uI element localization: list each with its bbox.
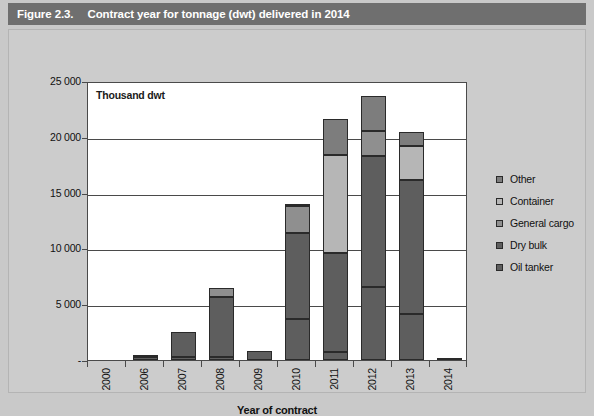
y-axis: -5 00010 00015 00020 00025 000 [9,30,81,394]
bar-segment-general_cargo[interactable] [285,206,310,233]
x-axis-tick [353,361,354,367]
x-axis-tick-label-2006: 2006 [138,368,150,391]
bar-2008[interactable] [209,81,234,360]
bar-segment-oil_tanker[interactable] [323,352,348,360]
bar-segment-container[interactable] [285,204,310,206]
bar-2010[interactable] [285,81,310,360]
bar-segment-oil_tanker[interactable] [209,357,234,360]
bar-segment-container[interactable] [399,146,424,181]
x-axis-tick [87,361,88,367]
figure-title-bar: Figure 2.3. Contract year for tonnage (d… [8,3,586,25]
bar-2007[interactable] [171,81,196,360]
bar-segment-other[interactable] [399,132,424,145]
y-axis-tick-label: 20 000 [50,131,81,143]
x-axis-tick [429,361,430,367]
y-axis-tick-label: - [78,354,81,366]
bar-segment-oil_tanker[interactable] [399,314,424,360]
x-axis-labels: 2000200620072008200920102011201220132014 [87,368,467,404]
bar-segment-oil_tanker[interactable] [171,357,196,360]
bar-segment-oil_tanker[interactable] [361,287,386,360]
x-axis-tick-label-2000: 2000 [100,368,112,391]
bar-segment-container[interactable] [323,155,348,253]
legend-item-dry_bulk[interactable]: Dry bulk [496,234,588,256]
bar-2000[interactable] [95,81,120,360]
bar-segment-oil_tanker[interactable] [133,357,158,360]
x-axis-tick-label-2012: 2012 [366,368,378,391]
plot-area: Thousand dwt [87,82,467,361]
legend-label: Container [510,195,554,207]
figure-number: Figure 2.3. [17,8,73,20]
bar-segment-oil_tanker[interactable] [285,319,310,360]
legend-label: Other [510,173,535,185]
bar-segment-dry_bulk[interactable] [361,156,386,288]
legend-item-general_cargo[interactable]: General cargo [496,212,588,234]
x-axis-tick-label-2013: 2013 [404,368,416,391]
x-axis-title: Year of contract [87,404,467,416]
bar-segment-oil_tanker[interactable] [437,358,462,360]
x-axis-tick-label-2014: 2014 [442,368,454,391]
bar-segment-other[interactable] [361,96,386,132]
bar-segment-dry_bulk[interactable] [323,253,348,352]
legend-swatch-icon [496,198,503,205]
legend-label: General cargo [510,217,574,229]
legend-label: Dry bulk [510,239,547,251]
bar-segment-dry_bulk[interactable] [399,180,424,314]
bar-segment-dry_bulk[interactable] [171,332,196,357]
bar-2006[interactable] [133,81,158,360]
legend-swatch-icon [496,242,503,249]
y-axis-tick-label: 15 000 [50,187,81,199]
x-axis-tick-label-2011: 2011 [328,368,340,390]
legend: OtherContainerGeneral cargoDry bulkOil t… [496,168,588,278]
bars-layer [88,83,466,360]
x-axis-tick [125,361,126,367]
legend-label: Oil tanker [510,261,553,273]
figure-title: Contract year for tonnage (dwt) delivere… [87,8,349,20]
bar-segment-general_cargo[interactable] [361,131,386,156]
x-axis-tick [201,361,202,367]
x-axis-tick-label-2007: 2007 [176,368,188,391]
legend-item-oil_tanker[interactable]: Oil tanker [496,256,588,278]
figure-body: -5 00010 00015 00020 00025 000 Thousand … [8,29,586,393]
x-axis-tick [277,361,278,367]
legend-swatch-icon [496,176,503,183]
x-axis-tick-label-2008: 2008 [214,368,226,391]
x-axis-tick [163,361,164,367]
bar-2014[interactable] [437,81,462,360]
bar-2011[interactable] [323,81,348,360]
bar-segment-dry_bulk[interactable] [285,233,310,319]
bar-2013[interactable] [399,81,424,360]
legend-swatch-icon [496,220,503,227]
bar-segment-other[interactable] [323,119,348,155]
bar-segment-general_cargo[interactable] [209,288,234,297]
bar-2012[interactable] [361,81,386,360]
legend-swatch-icon [496,264,503,271]
y-axis-tick-label: 10 000 [50,242,81,254]
legend-item-other[interactable]: Other [496,168,588,190]
x-axis-tick [391,361,392,367]
y-axis-tick-label: 5 000 [56,298,81,310]
legend-item-container[interactable]: Container [496,190,588,212]
y-axis-tick-label: 25 000 [50,75,81,87]
x-axis-tick [315,361,316,367]
x-axis-tick [466,361,467,367]
x-axis-tick-label-2009: 2009 [252,368,264,391]
bar-segment-dry_bulk[interactable] [133,355,158,357]
bar-segment-dry_bulk[interactable] [209,297,234,357]
bar-2009[interactable] [247,81,272,360]
x-axis-tick-label-2010: 2010 [290,368,302,391]
x-axis-tick [239,361,240,367]
bar-segment-dry_bulk[interactable] [247,351,272,360]
